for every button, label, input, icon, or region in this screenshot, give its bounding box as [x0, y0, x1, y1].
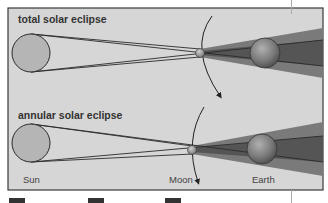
cropped-element: [165, 198, 181, 203]
earth-label: Earth: [252, 174, 275, 185]
sun-label: Sun: [23, 174, 40, 185]
sun-top: [12, 34, 50, 72]
diagram-canvas: [0, 0, 328, 203]
panel-title-total: total solar eclipse: [18, 13, 107, 25]
moon-label: Moon: [169, 174, 193, 185]
eclipse-diagram: total solar eclipse annular solar eclips…: [0, 0, 328, 203]
divider-line: [291, 190, 292, 203]
divider-line: [291, 0, 292, 14]
moon-top: [196, 49, 205, 58]
moon-bottom: [188, 146, 197, 155]
sun-bottom: [12, 124, 50, 162]
cropped-element: [9, 198, 25, 203]
panel-title-annular: annular solar eclipse: [18, 109, 122, 121]
earth-top: [250, 38, 280, 68]
earth-bottom: [247, 134, 277, 164]
cropped-element: [88, 198, 104, 203]
